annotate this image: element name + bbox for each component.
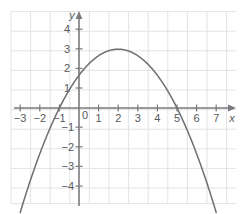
x-tick-label: −3 xyxy=(14,112,27,124)
plot-background xyxy=(0,0,246,214)
graph-figure: −3 −2 −1 0 1 2 3 4 5 6 7 4 3 2 1 −1 −2 −… xyxy=(0,0,246,214)
parabola-plot: −3 −2 −1 0 1 2 3 4 5 6 7 4 3 2 1 −1 −2 −… xyxy=(0,0,246,214)
y-tick-label: 2 xyxy=(64,62,70,74)
y-tick-label: −1 xyxy=(61,121,74,133)
y-tick-label: −2 xyxy=(61,141,74,153)
x-tick-label: 7 xyxy=(213,112,219,124)
x-tick-label: 4 xyxy=(154,112,160,124)
y-tick-label: 1 xyxy=(64,82,70,94)
x-tick-label: 2 xyxy=(115,112,121,124)
x-axis-label: x xyxy=(228,112,235,124)
x-tick-label: 1 xyxy=(96,112,102,124)
x-tick-label: 6 xyxy=(194,112,200,124)
x-tick-label-zero: 0 xyxy=(82,109,88,121)
y-tick-label: −3 xyxy=(61,160,74,172)
y-tick-label: −4 xyxy=(61,180,74,192)
y-tick-label: 4 xyxy=(64,23,70,35)
x-tick-label: 3 xyxy=(135,112,141,124)
y-tick-label: 3 xyxy=(64,43,70,55)
x-tick-label: −2 xyxy=(34,112,47,124)
